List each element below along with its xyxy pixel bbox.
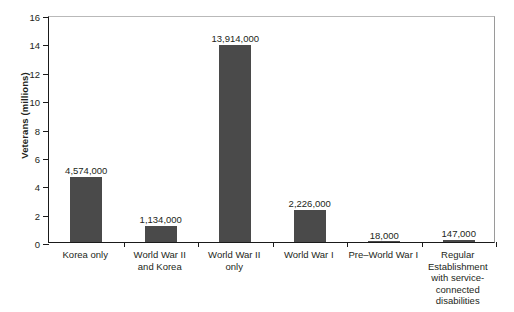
x-axis-tick xyxy=(496,242,497,247)
x-axis-category-label-line: disabilities xyxy=(412,295,504,307)
y-axis-title: Veterans (millions) xyxy=(19,36,30,196)
x-axis-category-label: RegularEstablishmentwith service-connect… xyxy=(412,249,504,307)
y-axis-tick-label: 16 xyxy=(29,12,40,23)
veterans-bar-chart: Veterans (millions) 02468101214164,574,0… xyxy=(0,0,514,312)
y-axis-tick-label: 6 xyxy=(35,153,40,164)
x-axis-tick xyxy=(124,242,125,247)
x-axis-category-label-line: with service- xyxy=(412,272,504,284)
y-axis-tick xyxy=(43,216,49,217)
y-axis-tick-label: 12 xyxy=(29,68,40,79)
y-axis-tick xyxy=(43,187,49,188)
y-axis-tick xyxy=(43,45,49,46)
bar-value-label: 1,134,000 xyxy=(140,214,182,225)
y-axis-tick xyxy=(43,159,49,160)
y-axis-tick-label: 10 xyxy=(29,97,40,108)
bar xyxy=(145,226,177,242)
x-axis-category-label-line: Regular xyxy=(412,249,504,261)
y-axis-tick xyxy=(43,131,49,132)
bar xyxy=(219,45,251,242)
x-axis-category-label-line: Establishment xyxy=(412,261,504,273)
y-axis-tick-label: 8 xyxy=(35,125,40,136)
x-axis-category-label-line: only xyxy=(188,261,280,273)
x-axis-tick xyxy=(273,242,274,247)
plot-area: 02468101214164,574,0001,134,00013,914,00… xyxy=(48,16,495,243)
y-axis-tick xyxy=(43,102,49,103)
x-axis-tick xyxy=(347,242,348,247)
bar xyxy=(70,177,102,242)
x-axis-category-label-line: connected xyxy=(412,284,504,296)
y-axis-tick xyxy=(43,74,49,75)
bar-value-label: 18,000 xyxy=(370,230,399,241)
y-axis-tick-label: 4 xyxy=(35,182,40,193)
bar-value-label: 147,000 xyxy=(442,228,476,239)
y-axis-tick xyxy=(43,244,49,245)
y-axis-tick-label: 14 xyxy=(29,40,40,51)
bar xyxy=(443,240,475,242)
bar-value-label: 2,226,000 xyxy=(289,198,331,209)
y-axis-tick-label: 2 xyxy=(35,210,40,221)
x-axis-tick xyxy=(198,242,199,247)
y-axis-tick-label: 0 xyxy=(35,239,40,250)
bar xyxy=(368,241,400,242)
bar xyxy=(294,210,326,242)
bar-value-label: 13,914,000 xyxy=(211,33,259,44)
y-axis-tick xyxy=(43,17,49,18)
x-axis-tick xyxy=(422,242,423,247)
bar-value-label: 4,574,000 xyxy=(65,165,107,176)
